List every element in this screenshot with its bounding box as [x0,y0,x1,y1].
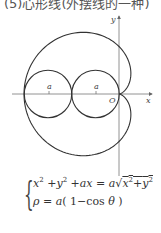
equals: = [93,177,109,190]
var-theta: θ [108,195,115,208]
cardioid-figure: y x O a a [0,0,161,178]
equation-system: { x2 +y2 +ax = a√x2+y2 ρ = a( 1−cos θ ) [24,174,161,214]
right-circle-label: a [94,82,99,91]
cartesian-equation: x2 +y2 +ax = a√x2+y2 [33,176,153,190]
one-minus: 1− [70,195,86,208]
y-axis-label: y [110,15,116,24]
cos-function: cos [86,195,108,208]
equals: = [39,195,55,208]
term-ax: ax [80,177,93,190]
exponent: 2 [149,176,153,184]
polar-equation: ρ = a( 1−cos θ ) [33,195,123,208]
left-circle-label: a [47,82,52,91]
paren-close: ) [115,195,123,208]
plus: + [133,177,142,190]
origin-label: O [109,96,116,105]
x-axis-label: x [146,96,151,105]
paren-open: ( [62,195,70,208]
plus: + [44,177,57,190]
plus: + [67,177,80,190]
radicand: x2+y2 [122,177,153,190]
